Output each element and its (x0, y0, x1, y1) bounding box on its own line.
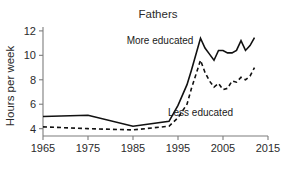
y-tick-label: 10 (24, 49, 36, 61)
x-tick-label: 1975 (76, 142, 100, 154)
series-annotations: More educatedLess educated (127, 35, 233, 118)
y-axis-title: Hours per week (4, 45, 16, 126)
y-tick-label: 8 (30, 74, 36, 86)
y-axis-title-group: Hours per week (4, 45, 16, 126)
y-axis: 4681012 (24, 25, 43, 136)
y-tick-label: 4 (30, 123, 36, 135)
x-tick-label: 1995 (166, 142, 190, 154)
x-tick-label: 2015 (256, 142, 280, 154)
x-tick-label: 1965 (31, 142, 55, 154)
x-tick-label: 2005 (211, 142, 235, 154)
chart-title: Fathers (139, 8, 178, 20)
annotation-more-educated: More educated (127, 35, 194, 46)
annotation-less-educated: Less educated (168, 107, 233, 118)
x-axis: 196519751985199520052015 (31, 136, 280, 154)
x-tick-label: 1985 (121, 142, 145, 154)
y-tick-label: 6 (30, 98, 36, 110)
y-tick-label: 12 (24, 25, 36, 37)
fathers-line-chart: Fathers Hours per week 4681012 196519751… (0, 0, 292, 173)
chart-container: Fathers Hours per week 4681012 196519751… (0, 0, 292, 173)
series-line-less-educated (43, 60, 255, 130)
chart-title-group: Fathers (139, 8, 178, 20)
